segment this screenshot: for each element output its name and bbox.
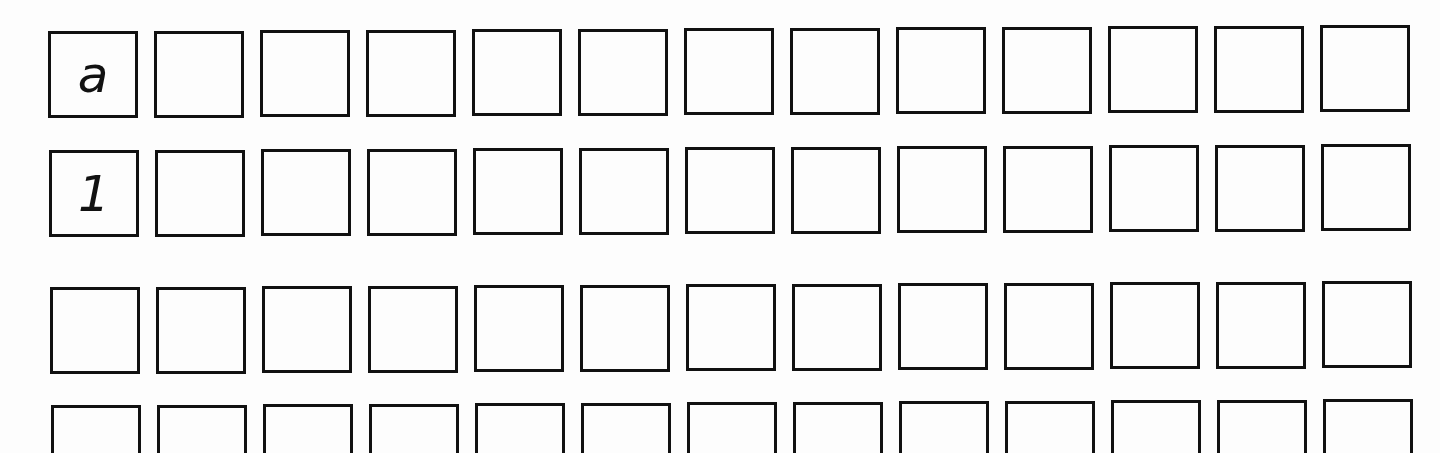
writing-box <box>263 404 353 453</box>
writing-box <box>686 284 776 371</box>
writing-box <box>1323 399 1413 453</box>
row-4-label-box <box>51 405 141 453</box>
writing-box <box>1004 283 1094 370</box>
row-3-label-box <box>50 287 140 374</box>
writing-box <box>791 147 881 234</box>
writing-box <box>472 29 562 116</box>
writing-box <box>475 403 565 453</box>
writing-box <box>579 148 669 235</box>
writing-box <box>261 149 351 236</box>
writing-box <box>1216 282 1306 369</box>
writing-box <box>1217 400 1307 453</box>
writing-box <box>260 30 350 117</box>
writing-box <box>1109 145 1199 232</box>
writing-box <box>792 284 882 371</box>
row-label-glyph: 1 <box>78 169 110 219</box>
writing-box <box>1005 401 1095 453</box>
writing-box <box>156 287 246 374</box>
writing-box <box>897 146 987 233</box>
writing-box <box>369 404 459 453</box>
writing-box <box>581 403 671 453</box>
writing-box <box>1321 144 1411 231</box>
writing-box <box>687 402 777 453</box>
writing-box <box>898 283 988 370</box>
writing-box <box>685 147 775 234</box>
writing-box <box>1322 281 1412 368</box>
writing-box <box>157 405 247 453</box>
writing-box <box>1111 400 1201 453</box>
row-2-label-box: 1 <box>49 150 139 237</box>
writing-box <box>1108 26 1198 113</box>
writing-box <box>154 31 244 118</box>
writing-box <box>1002 27 1092 114</box>
writing-box <box>1110 282 1200 369</box>
row-label-glyph: a <box>78 50 109 100</box>
writing-box <box>899 401 989 453</box>
writing-box <box>578 29 668 116</box>
writing-box <box>262 286 352 373</box>
writing-box <box>684 28 774 115</box>
writing-box <box>1214 26 1304 113</box>
writing-box <box>474 285 564 372</box>
writing-box <box>155 150 245 237</box>
writing-box <box>896 27 986 114</box>
row-1-label-box: a <box>48 31 138 118</box>
writing-box <box>366 30 456 117</box>
writing-box <box>368 286 458 373</box>
writing-box <box>1215 145 1305 232</box>
writing-box <box>473 148 563 235</box>
writing-box <box>580 285 670 372</box>
writing-box <box>790 28 880 115</box>
writing-box <box>367 149 457 236</box>
writing-box <box>793 402 883 453</box>
handwriting-practice-worksheet: a1 <box>0 0 1440 453</box>
writing-box <box>1003 146 1093 233</box>
writing-box <box>1320 25 1410 112</box>
